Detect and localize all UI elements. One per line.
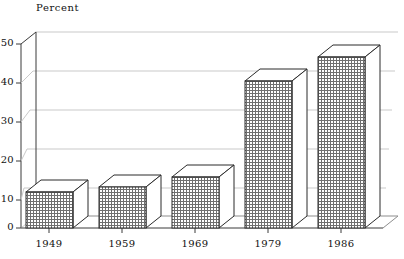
x-tick-label-1969: 1969 — [168, 238, 222, 249]
x-tick-label-1979: 1979 — [241, 238, 295, 249]
bar-chart-canvas — [0, 0, 404, 259]
y-axis-title: Percent — [36, 2, 79, 13]
y-tick-label-20: 20 — [0, 154, 14, 165]
x-tickmarks — [49, 228, 341, 233]
y-tick-label-10: 10 — [0, 193, 14, 204]
y-tick-label-50: 50 — [0, 37, 14, 48]
y-tick-label-0: 0 — [0, 221, 14, 232]
x-tick-label-1959: 1959 — [95, 238, 149, 249]
y-tick-label-30: 30 — [0, 115, 14, 126]
x-tick-label-1986: 1986 — [314, 238, 368, 249]
bar-1979[interactable] — [245, 69, 307, 228]
bar-1969[interactable] — [172, 165, 234, 228]
y-tick-label-40: 40 — [0, 76, 14, 87]
bar-1986[interactable] — [318, 45, 380, 228]
y-tickmarks — [16, 44, 21, 228]
bar-1959[interactable] — [99, 175, 161, 228]
bar-1949[interactable] — [26, 180, 88, 228]
chart-container: Percent 50 40 30 20 10 0 1949 1959 1969 … — [0, 0, 404, 259]
x-tick-label-1949: 1949 — [22, 238, 76, 249]
